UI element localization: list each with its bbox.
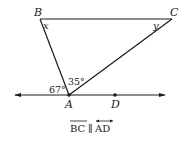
caption-parallel-symbol: ∥ [88, 123, 93, 134]
point-d [113, 93, 117, 97]
angle-x-label: x [43, 20, 49, 31]
geometry-diagram: B C A D x y 67° 35° BC ∥ AD [0, 0, 183, 142]
label-a: A [64, 98, 73, 111]
ad-arrowhead-right [110, 120, 113, 123]
angle-67-label: 67° [49, 84, 66, 95]
caption-parallel: BC ∥ AD [70, 120, 113, 135]
label-d: D [110, 98, 120, 111]
angle-y-label: y [152, 20, 159, 31]
point-a [67, 93, 71, 97]
caption-ad: AD [94, 123, 110, 134]
angle-35-label: 35° [68, 76, 85, 87]
label-c: C [170, 6, 179, 19]
label-b: B [33, 6, 42, 19]
caption-bc: BC [70, 123, 86, 134]
